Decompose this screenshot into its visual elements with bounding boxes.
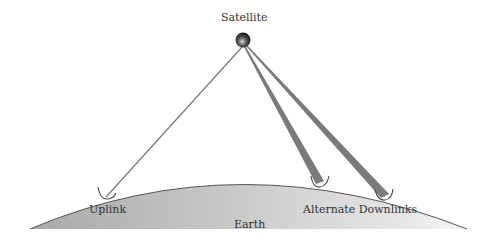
alternate-downlinks-label: Alternate Downlinks [303,203,417,216]
satellite-label: Satellite [221,11,268,24]
earth-label: Earth [234,218,265,231]
satellite-icon [236,33,251,48]
satellite-link-diagram [0,0,492,242]
uplink-beam [106,46,243,197]
uplink-label: Uplink [89,203,126,216]
